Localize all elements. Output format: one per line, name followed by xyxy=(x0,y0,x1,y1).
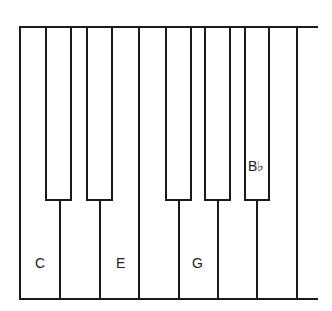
black-key-c-sharp[interactable] xyxy=(46,27,71,200)
piano-keyboard xyxy=(0,0,332,311)
label-c: C xyxy=(35,256,45,270)
black-key-d-sharp[interactable] xyxy=(87,27,112,200)
black-key-f-sharp[interactable] xyxy=(166,27,191,200)
label-b-flat: B♭ xyxy=(248,159,264,173)
black-key-b-flat[interactable] xyxy=(245,27,269,200)
black-key-g-sharp[interactable] xyxy=(205,27,230,200)
label-g: G xyxy=(192,256,203,270)
label-e: E xyxy=(116,256,125,270)
